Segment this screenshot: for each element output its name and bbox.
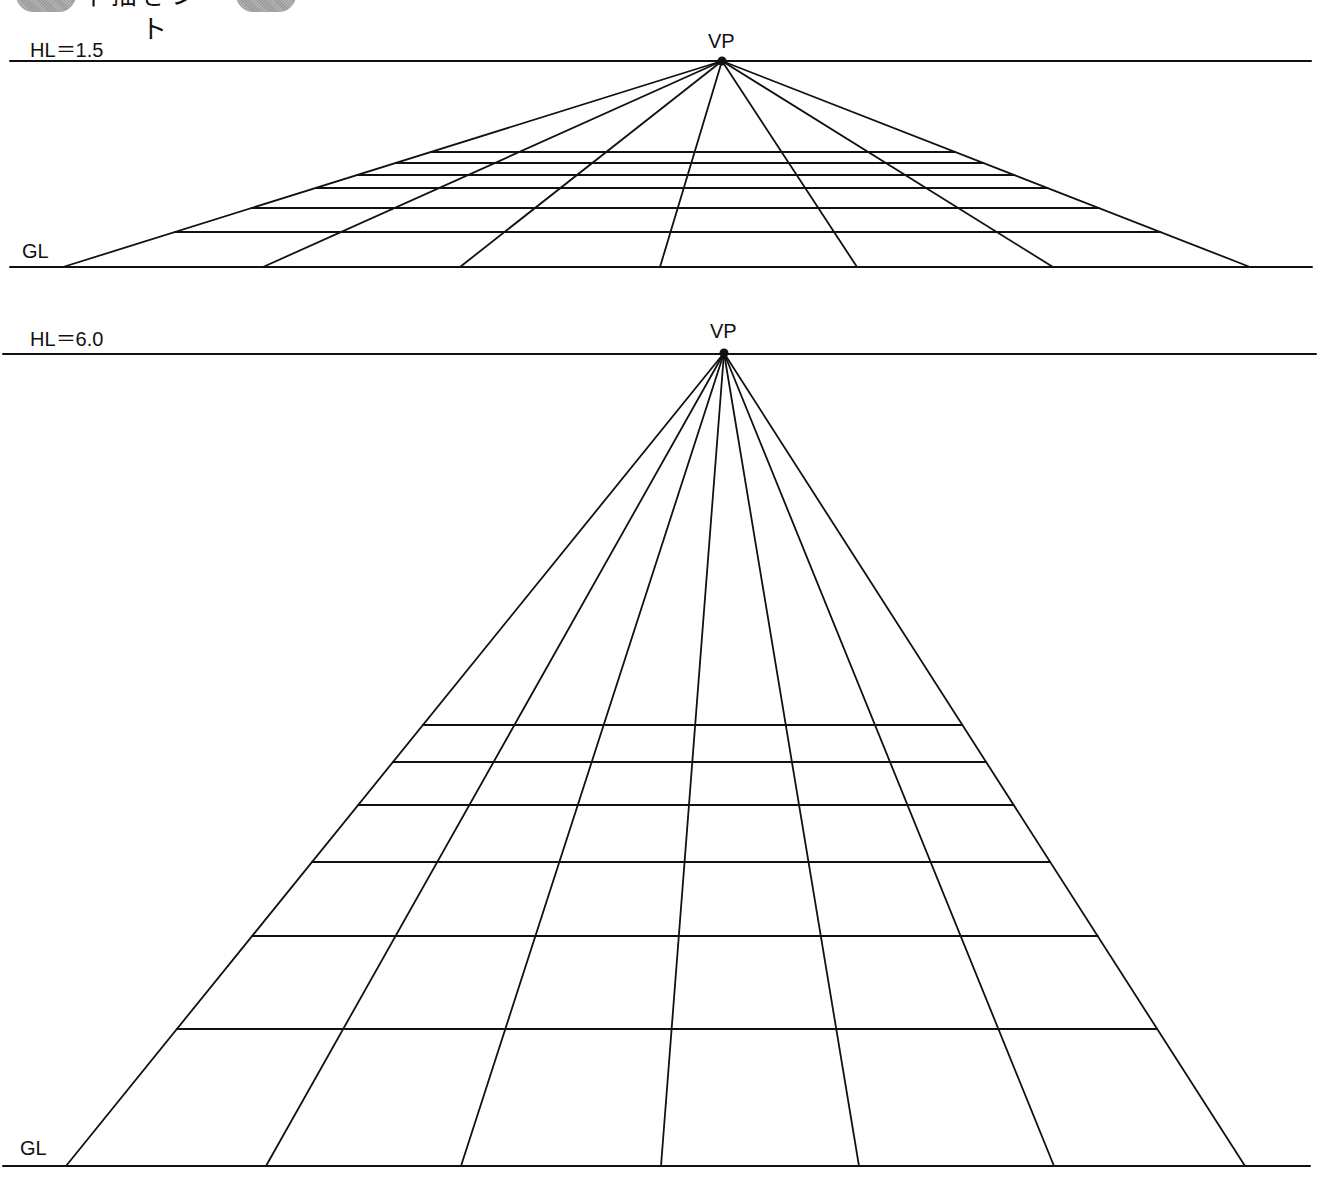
panel-hl-6-0 (3, 349, 1316, 1167)
perspective-ray (460, 61, 722, 267)
vanishing-point-label: VP (708, 30, 735, 53)
perspective-ray (724, 353, 1245, 1166)
perspective-ray (63, 61, 722, 267)
perspective-ray (263, 61, 722, 267)
perspective-ray (722, 61, 857, 267)
perspective-ray (724, 353, 859, 1166)
perspective-ray (722, 61, 1250, 267)
perspective-ray (661, 353, 724, 1166)
perspective-ray (66, 353, 724, 1166)
perspective-ray (722, 61, 1053, 267)
perspective-ray (266, 353, 724, 1166)
ground-line-label: GL (20, 1137, 47, 1160)
vanishing-point-dot (720, 349, 729, 358)
perspective-ray (724, 353, 1054, 1166)
perspective-ray (461, 353, 724, 1166)
horizon-line-label: HL＝1.5 (30, 34, 103, 63)
panel-hl-1-5 (10, 57, 1312, 268)
ground-line-label: GL (22, 240, 49, 263)
perspective-ray (660, 61, 722, 267)
perspective-diagram (0, 0, 1318, 1177)
vanishing-point-label: VP (710, 320, 737, 343)
horizon-line-label: HL＝6.0 (30, 323, 103, 352)
vanishing-point-dot (718, 57, 727, 66)
